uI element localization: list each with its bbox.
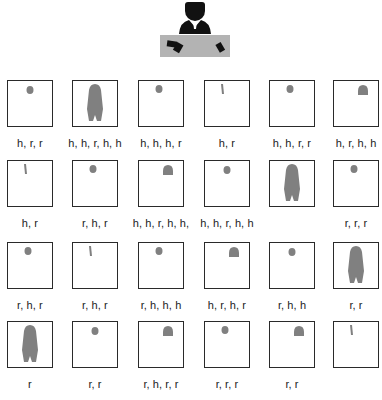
- student-silhouette-desk-front-wide-icon: [269, 80, 315, 127]
- student-silhouette-desk-front-wide-icon: [138, 242, 184, 289]
- student-label: r, r: [249, 378, 335, 390]
- student-silhouette-desk-side-icon: [138, 321, 184, 368]
- student-silhouette-standing-arms-out-icon: [7, 321, 53, 368]
- student-silhouette-desk-front-icon: [204, 160, 250, 207]
- student-silhouette-hand-raised-icon: [7, 160, 53, 207]
- student-silhouette-hand-raised-icon: [333, 321, 379, 368]
- student-grid: h, r, r h, h, r, h, h h, h, h, r h, r: [0, 0, 382, 400]
- student-silhouette-desk-side-icon: [138, 160, 184, 207]
- student-silhouette-desk-front-icon: [7, 80, 53, 127]
- student-silhouette-desk-front-wide-icon: [72, 160, 118, 207]
- student-silhouette-desk-front-icon: [269, 242, 315, 289]
- student-label: h, h, r, h, h: [184, 217, 270, 229]
- student-silhouette-desk-side-icon: [333, 80, 379, 127]
- student-silhouette-hand-raised-icon: [72, 242, 118, 289]
- student-silhouette-hand-raised-icon: [204, 80, 250, 127]
- student-label: r, r, r: [313, 217, 382, 229]
- student-label: r, r: [313, 299, 382, 311]
- student-silhouette-standing-arms-out-icon: [333, 242, 379, 289]
- student-silhouette-desk-front-icon: [72, 321, 118, 368]
- student-silhouette-desk-side-icon: [204, 242, 250, 289]
- student-silhouette-standing-arms-out-icon: [269, 160, 315, 207]
- student-silhouette-standing-arms-out-icon: [72, 80, 118, 127]
- student-silhouette-desk-front-wide-icon: [138, 80, 184, 127]
- student-silhouette-desk-side-icon: [269, 321, 315, 368]
- student-silhouette-desk-front-wide-icon: [333, 160, 379, 207]
- student-silhouette-desk-front-wide-icon: [7, 242, 53, 289]
- student-label: h, r, h, h: [313, 137, 382, 149]
- student-silhouette-desk-front-wide-icon: [204, 321, 250, 368]
